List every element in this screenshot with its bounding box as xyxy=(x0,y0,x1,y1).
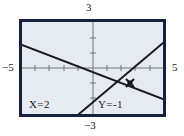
x-min-label: −5 xyxy=(2,62,14,73)
trace-y-readout: Y=-1 xyxy=(98,99,123,110)
trace-x-readout: X=2 xyxy=(29,99,50,110)
x-max-label: 5 xyxy=(172,62,178,73)
graphing-calculator-figure: 3 −3 −5 5 xyxy=(0,0,184,136)
y-min-label: −3 xyxy=(84,120,96,131)
y-max-label: 3 xyxy=(86,2,92,13)
calculator-screen: X=2 Y=-1 xyxy=(19,19,166,117)
